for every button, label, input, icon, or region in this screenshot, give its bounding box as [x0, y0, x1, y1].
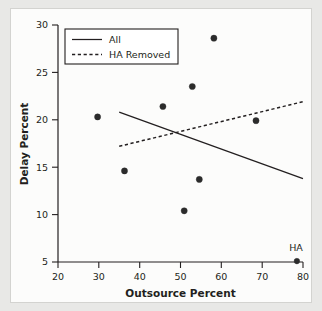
x-tick-label-20: 20 — [52, 271, 64, 282]
y-tick-label-30: 30 — [36, 19, 48, 30]
ha-annotation-label: HA — [289, 242, 303, 253]
data-point — [211, 35, 217, 41]
y-axis-ticks — [52, 25, 58, 262]
y-tick-label-20: 20 — [36, 114, 48, 125]
x-tick-label-40: 40 — [134, 271, 146, 282]
x-tick-label-60: 60 — [215, 271, 227, 282]
x-axis-ticks — [58, 262, 303, 268]
chart-figure: 5 10 15 20 25 30 20 30 40 50 60 70 80 — [10, 8, 312, 303]
x-axis-tick-labels: 20 30 40 50 60 70 80 — [52, 271, 309, 282]
x-axis-title: Outsource Percent — [125, 287, 235, 299]
data-point — [253, 118, 259, 124]
y-tick-label-5: 5 — [42, 256, 48, 267]
data-point — [121, 168, 127, 174]
legend-label-ha-removed: HA Removed — [109, 49, 170, 60]
data-point-ha — [294, 258, 300, 264]
x-tick-label-50: 50 — [174, 271, 186, 282]
data-point — [196, 176, 202, 182]
x-tick-label-70: 70 — [256, 271, 268, 282]
chart-legend: All HA Removed — [65, 29, 178, 64]
fit-line-all — [119, 112, 303, 178]
data-point — [181, 208, 187, 214]
data-point — [95, 114, 101, 120]
y-axis-title: Delay Percent — [18, 103, 30, 186]
y-tick-label-25: 25 — [36, 67, 48, 78]
fit-line-ha-removed — [119, 102, 303, 147]
x-tick-label-80: 80 — [297, 271, 309, 282]
y-tick-label-10: 10 — [36, 209, 48, 220]
x-tick-label-30: 30 — [93, 271, 105, 282]
data-points — [95, 35, 300, 264]
legend-label-all: All — [109, 34, 121, 45]
scatter-plot: 5 10 15 20 25 30 20 30 40 50 60 70 80 — [11, 9, 313, 304]
y-tick-label-15: 15 — [36, 162, 48, 173]
y-axis-tick-labels: 5 10 15 20 25 30 — [36, 19, 48, 267]
data-point — [189, 83, 195, 89]
data-point — [160, 103, 166, 109]
